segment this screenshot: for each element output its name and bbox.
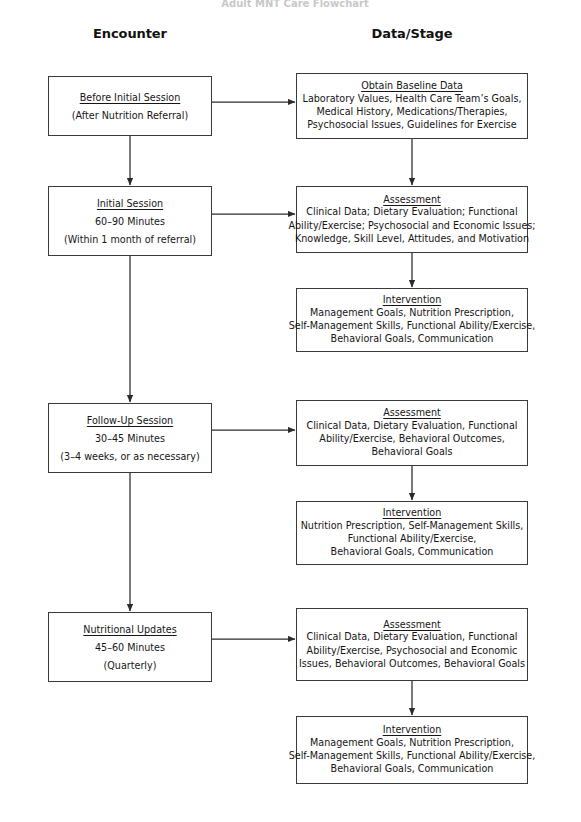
node-title: Intervention xyxy=(383,294,442,305)
node-title: Nutritional Updates xyxy=(83,624,176,635)
node-before-initial-session[interactable]: Before Initial Session (After Nutrition … xyxy=(48,76,212,136)
node-title: Assessment xyxy=(383,619,441,630)
node-line: Functional Ability/Exercise, xyxy=(348,532,477,545)
node-line: Nutrition Prescription, Self-Management … xyxy=(301,519,524,532)
node-line: (3–4 weeks, or as necessary) xyxy=(60,451,199,462)
node-title: Intervention xyxy=(383,724,442,735)
node-line: Ability/Exercise, Behavioral Outcomes, xyxy=(319,432,504,445)
node-line: Ability/Exercise, Psychosocial and Econo… xyxy=(307,644,518,657)
node-line: Self-Management Skills, Functional Abili… xyxy=(289,749,536,762)
node-title: Assessment xyxy=(383,407,441,418)
figure-title: Adult MNT Care Flowchart xyxy=(150,0,440,7)
node-line: (Within 1 month of referral) xyxy=(64,234,196,245)
flowchart-canvas: Adult MNT Care Flowchart Encounter Data/… xyxy=(0,0,581,822)
node-line: 45–60 Minutes xyxy=(95,642,165,653)
node-title: Follow-Up Session xyxy=(87,415,173,426)
node-title: Intervention xyxy=(383,507,442,518)
node-obtain-baseline-data[interactable]: Obtain Baseline Data Laboratory Values, … xyxy=(296,73,528,139)
node-title: Obtain Baseline Data xyxy=(361,80,463,91)
node-line: 60–90 Minutes xyxy=(95,216,165,227)
node-line: Laboratory Values, Health Care Team’s Go… xyxy=(303,92,522,105)
node-line: Clinical Data; Dietary Evaluation; Funct… xyxy=(306,205,517,218)
node-title: Initial Session xyxy=(97,198,163,209)
node-title: Assessment xyxy=(383,194,441,205)
node-title: Before Initial Session xyxy=(80,92,181,103)
node-line: Behavioral Goals, Communication xyxy=(331,545,494,558)
node-initial-session[interactable]: Initial Session 60–90 Minutes (Within 1 … xyxy=(48,186,212,256)
node-line: (Quarterly) xyxy=(104,660,157,671)
node-nutritional-updates[interactable]: Nutritional Updates 45–60 Minutes (Quart… xyxy=(48,612,212,682)
node-line: Ability/Exercise; Psychosocial and Econo… xyxy=(288,219,535,232)
node-line: Clinical Data, Dietary Evaluation, Funct… xyxy=(307,419,518,432)
node-line: Clinical Data, Dietary Evaluation, Funct… xyxy=(307,630,518,643)
node-follow-up-session[interactable]: Follow-Up Session 30–45 Minutes (3–4 wee… xyxy=(48,403,212,473)
node-line: Behavioral Goals xyxy=(371,445,452,458)
node-line: Behavioral Goals, Communication xyxy=(331,332,494,345)
node-line: Management Goals, Nutrition Prescription… xyxy=(310,306,514,319)
column-header-encounter: Encounter xyxy=(60,26,200,41)
node-assessment-followup[interactable]: Assessment Clinical Data, Dietary Evalua… xyxy=(296,400,528,466)
node-intervention-initial[interactable]: Intervention Management Goals, Nutrition… xyxy=(296,288,528,352)
node-line: Management Goals, Nutrition Prescription… xyxy=(310,736,514,749)
node-line: Knowledge, Skill Level, Attitudes, and M… xyxy=(295,232,529,245)
node-assessment-initial[interactable]: Assessment Clinical Data; Dietary Evalua… xyxy=(296,186,528,253)
node-line: Behavioral Goals, Communication xyxy=(331,762,494,775)
node-intervention-followup[interactable]: Intervention Nutrition Prescription, Sel… xyxy=(296,501,528,565)
node-line: Psychosocial Issues, Guidelines for Exer… xyxy=(307,118,517,131)
node-assessment-updates[interactable]: Assessment Clinical Data, Dietary Evalua… xyxy=(296,608,528,681)
node-line: Self-Management Skills, Functional Abili… xyxy=(289,319,536,332)
node-intervention-updates[interactable]: Intervention Management Goals, Nutrition… xyxy=(296,716,528,784)
node-line: Issues, Behavioral Outcomes, Behavioral … xyxy=(299,657,525,670)
column-header-data-stage: Data/Stage xyxy=(342,26,482,41)
node-line: (After Nutrition Referral) xyxy=(72,110,188,121)
node-line: 30–45 Minutes xyxy=(95,433,165,444)
node-line: Medical History, Medications/Therapies, xyxy=(316,105,507,118)
